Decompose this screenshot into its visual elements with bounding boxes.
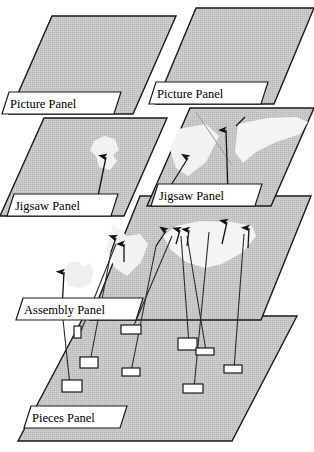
label-picture-panel-left-text: Picture Panel xyxy=(10,97,77,111)
piece-7[interactable] xyxy=(196,348,214,355)
label-jigsaw-panel-right[interactable]: Jigsaw Panel xyxy=(151,184,262,206)
diagram-canvas: Picture Panel Picture Panel Jigsaw Panel… xyxy=(0,0,314,452)
label-pieces-panel-text: Pieces Panel xyxy=(32,411,95,425)
label-jigsaw-panel-left-text: Jigsaw Panel xyxy=(15,199,80,213)
piece-8[interactable] xyxy=(183,384,203,393)
piece-5[interactable] xyxy=(121,325,141,334)
assembly-piece-blob-small xyxy=(62,261,94,288)
label-jigsaw-panel-left[interactable]: Jigsaw Panel xyxy=(7,194,118,216)
layered-panel-diagram: Picture Panel Picture Panel Jigsaw Panel… xyxy=(0,0,314,452)
piece-4[interactable] xyxy=(122,368,140,376)
piece-1[interactable] xyxy=(62,380,82,392)
label-jigsaw-panel-right-text: Jigsaw Panel xyxy=(159,189,224,203)
label-assembly-panel-text: Assembly Panel xyxy=(24,303,105,317)
piece-9[interactable] xyxy=(224,365,242,373)
label-pieces-panel[interactable]: Pieces Panel xyxy=(24,406,127,428)
piece-3[interactable] xyxy=(74,326,81,338)
piece-2[interactable] xyxy=(80,357,98,368)
piece-6[interactable] xyxy=(178,338,197,350)
label-picture-panel-left[interactable]: Picture Panel xyxy=(2,92,121,114)
label-picture-panel-right[interactable]: Picture Panel xyxy=(149,82,268,104)
label-assembly-panel[interactable]: Assembly Panel xyxy=(16,298,143,320)
label-picture-panel-right-text: Picture Panel xyxy=(157,87,224,101)
